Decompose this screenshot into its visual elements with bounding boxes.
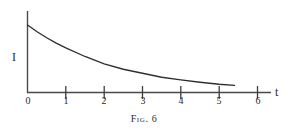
exponential-decay-curve	[28, 25, 235, 85]
y-axis-label: I	[12, 51, 16, 63]
x-tick-label-2: 2	[97, 96, 111, 106]
x-tick-label-4: 4	[174, 96, 188, 106]
x-axis-label: t	[275, 86, 278, 98]
x-tick-label-0: 0	[21, 96, 35, 106]
caption-word: Fig.	[131, 113, 149, 124]
x-tick-label-3: 3	[136, 96, 150, 106]
caption-number: 6	[152, 113, 158, 124]
figure-caption: Fig. 6	[0, 113, 288, 124]
x-tick-label-1: 1	[59, 96, 73, 106]
x-tick-label-6: 6	[251, 96, 265, 106]
figure-container: 0 1 2 3 4 5 6 I t Fig. 6	[0, 0, 288, 136]
x-tick-label-5: 5	[212, 96, 226, 106]
